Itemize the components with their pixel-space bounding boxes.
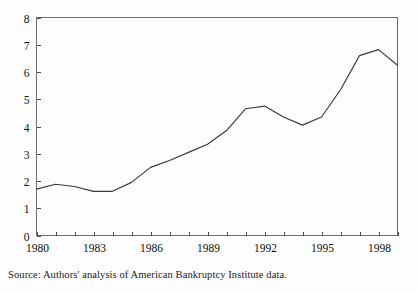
y-axis-tick-labels: 012345678 [24,13,30,243]
y-tick-label-7: 7 [24,40,30,52]
x-tick-label-1986: 1986 [140,242,163,254]
figure-container: 012345678 1980198319861989199219951998 S… [0,0,418,293]
x-tick-label-1980: 1980 [26,242,49,254]
y-axis-ticks [37,19,41,237]
chart-plot-area: 012345678 1980198319861989199219951998 [0,0,418,262]
y-tick-label-2: 2 [24,176,30,188]
x-tick-label-1989: 1989 [197,242,220,254]
y-tick-label-4: 4 [24,122,30,134]
y-tick-label-1: 1 [24,203,30,215]
line-chart: 012345678 1980198319861989199219951998 [0,0,418,262]
y-tick-label-8: 8 [24,13,30,25]
y-tick-label-3: 3 [24,149,30,161]
source-note: Source: Authors' analysis of American Ba… [8,268,408,281]
data-series-line [37,50,398,192]
x-axis-tick-labels: 1980198319861989199219951998 [26,242,391,254]
x-axis-ticks [38,232,399,236]
x-tick-label-1998: 1998 [368,242,391,254]
x-tick-label-1992: 1992 [254,242,277,254]
x-tick-label-1995: 1995 [311,242,334,254]
y-tick-label-6: 6 [24,67,30,79]
y-tick-label-5: 5 [24,94,30,106]
x-tick-label-1983: 1983 [83,242,106,254]
plot-border [37,18,398,236]
